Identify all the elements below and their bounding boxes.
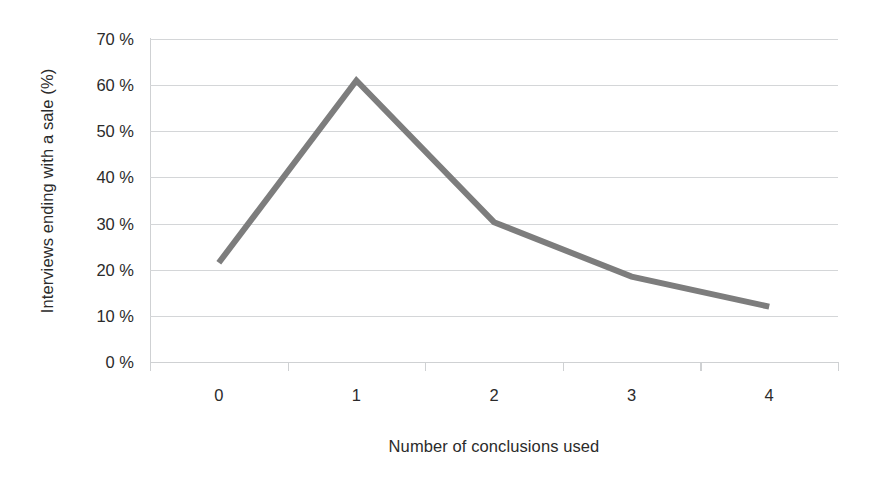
plot-area — [150, 39, 838, 362]
y-tick-label-50: 50 % — [96, 122, 134, 141]
x-tick-label-1: 1 — [352, 386, 361, 405]
x-tick-label-2: 2 — [489, 386, 498, 405]
x-tick-label-3: 3 — [627, 386, 636, 405]
y-axis-tick-labels: 0 %10 %20 %30 %40 %50 %60 %70 % — [48, 0, 144, 498]
x-tick-label-0: 0 — [214, 386, 223, 405]
x-tick-2 — [425, 362, 426, 371]
x-axis-ticks — [0, 362, 870, 374]
x-axis-title: Number of conclusions used — [150, 437, 838, 456]
x-tick-label-4: 4 — [765, 386, 774, 405]
x-tick-3 — [563, 362, 564, 371]
y-tick-label-30: 30 % — [96, 214, 134, 233]
x-tick-1 — [288, 362, 289, 371]
x-axis-tick-labels: 01234 — [0, 386, 870, 416]
y-tick-label-70: 70 % — [96, 30, 134, 49]
y-tick-label-60: 60 % — [96, 76, 134, 95]
x-tick-0 — [150, 362, 151, 371]
y-tick-label-10: 10 % — [96, 306, 134, 325]
chart-figure: Interviews ending with a sale (%) 0 %10 … — [0, 0, 870, 498]
x-tick-5 — [838, 362, 839, 371]
y-tick-label-40: 40 % — [96, 168, 134, 187]
data-series-line — [150, 39, 838, 362]
x-tick-4 — [700, 362, 701, 371]
y-tick-label-20: 20 % — [96, 260, 134, 279]
